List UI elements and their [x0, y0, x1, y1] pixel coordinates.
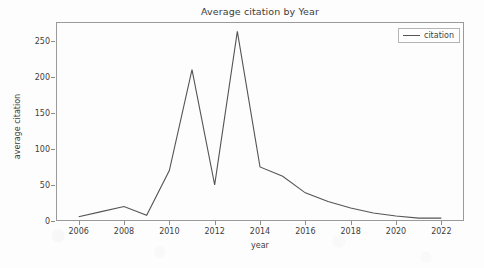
x-axis-tick-label: 2014	[250, 227, 270, 236]
x-axis-tick-mark	[260, 221, 261, 225]
x-axis-tick-mark	[351, 221, 352, 225]
chart-figure: Average citation by Year 050100150200250…	[0, 0, 484, 268]
legend-line-swatch-icon	[403, 35, 420, 36]
y-axis-tick-mark	[51, 221, 55, 222]
x-axis-tick-label: 2012	[204, 227, 224, 236]
y-axis-tick-label: 150	[35, 108, 50, 117]
x-axis-tick-mark	[79, 221, 80, 225]
x-axis-tick-label: 2022	[431, 227, 451, 236]
y-axis-tick-mark	[51, 41, 55, 42]
y-axis-label: average citation	[13, 72, 22, 182]
y-axis-tick-label: 250	[35, 36, 50, 45]
chart-legend: citation	[398, 28, 460, 43]
y-axis-tick-labels: 050100150200250	[22, 0, 50, 268]
x-axis-tick-label: 2006	[68, 227, 88, 236]
y-axis-tick-label: 0	[45, 217, 50, 226]
plot-svg	[56, 22, 464, 221]
x-axis-tick-mark	[305, 221, 306, 225]
x-axis-tick-mark	[396, 221, 397, 225]
x-axis-tick-label: 2010	[159, 227, 179, 236]
x-axis-tick-label: 2020	[386, 227, 406, 236]
x-axis-tick-label: 2016	[295, 227, 315, 236]
x-axis-tick-mark	[215, 221, 216, 225]
x-axis-tick-label: 2008	[114, 227, 134, 236]
y-axis-tick-label: 200	[35, 72, 50, 81]
chart-title: Average citation by Year	[56, 6, 464, 17]
x-axis-tick-mark	[169, 221, 170, 225]
x-axis-tick-mark	[441, 221, 442, 225]
x-axis-tick-label: 2018	[340, 227, 360, 236]
y-axis-tick-mark	[51, 149, 55, 150]
x-axis-label: year	[56, 241, 464, 250]
legend-entry-label: citation	[424, 31, 454, 40]
y-axis-tick-label: 50	[40, 180, 50, 189]
y-axis-tick-mark	[51, 77, 55, 78]
data-series-line-citation	[79, 31, 442, 218]
y-axis-tick-mark	[51, 185, 55, 186]
y-axis-tick-label: 100	[35, 144, 50, 153]
y-axis-tick-mark	[51, 113, 55, 114]
x-axis-tick-mark	[124, 221, 125, 225]
